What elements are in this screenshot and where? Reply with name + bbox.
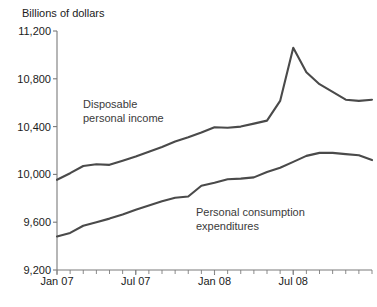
line-chart: Billions of dollars 9,2009,60010,00010,4… <box>0 0 377 307</box>
x-axis-tick-labels: Jan 07Jul 07Jan 08Jul 08 <box>40 275 307 287</box>
chart-container: Billions of dollars 9,2009,60010,00010,4… <box>0 0 377 307</box>
x-tick-label: Jul 08 <box>279 275 308 287</box>
figure-caption-clipped <box>4 299 377 307</box>
x-tick-label: Jul 07 <box>121 275 150 287</box>
y-tick-label: 9,600 <box>23 216 51 228</box>
x-tick-label: Jan 08 <box>198 275 231 287</box>
x-tick-label: Jan 07 <box>40 275 73 287</box>
disposable-personal-income-label: Disposable <box>83 98 137 110</box>
y-tick-label: 11,200 <box>18 25 51 37</box>
y-axis-tick-marks <box>53 31 57 270</box>
personal-consumption-expenditures-label: expenditures <box>196 220 259 232</box>
y-axis-tick-labels: 9,2009,60010,00010,40010,80011,200 <box>17 25 51 276</box>
series-annotations: Disposablepersonal incomePersonal consum… <box>83 98 305 232</box>
y-tick-label: 10,000 <box>17 168 51 180</box>
y-axis-title: Billions of dollars <box>22 7 105 19</box>
x-axis-tick-marks <box>57 270 372 275</box>
y-tick-label: 10,400 <box>17 121 51 133</box>
disposable-personal-income-label: personal income <box>83 112 164 124</box>
personal-consumption-expenditures-label: Personal consumption <box>196 206 305 218</box>
y-tick-label: 10,800 <box>17 73 51 85</box>
